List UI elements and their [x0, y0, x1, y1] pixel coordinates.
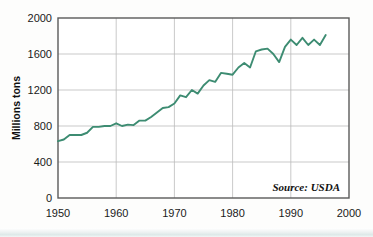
y-tick-1600: 1600 [28, 48, 52, 60]
y-tick-400: 400 [34, 156, 52, 168]
x-tick-2000: 2000 [337, 207, 361, 219]
scan-page-edge [0, 228, 373, 237]
x-axis-tick-labels: 1950 1960 1970 1980 1990 2000 [46, 207, 361, 219]
y-tick-2000: 2000 [28, 12, 52, 24]
y-tick-1200: 1200 [28, 84, 52, 96]
y-tick-800: 800 [34, 120, 52, 132]
chart-plot-area: 2000 1600 1200 800 400 0 1950 1960 1970 … [0, 0, 373, 237]
x-tick-1980: 1980 [220, 207, 244, 219]
plot-background [58, 18, 349, 198]
y-axis-tick-labels: 2000 1600 1200 800 400 0 [28, 12, 52, 204]
y-tick-0: 0 [46, 192, 52, 204]
y-axis-title: Millions tons [10, 76, 22, 140]
source-annotation: Source: USDA [272, 181, 340, 193]
x-tick-1950: 1950 [46, 207, 70, 219]
x-tick-1970: 1970 [162, 207, 186, 219]
chart-figure: 2000 1600 1200 800 400 0 1950 1960 1970 … [0, 0, 373, 237]
x-tick-1990: 1990 [279, 207, 303, 219]
x-tick-1960: 1960 [104, 207, 128, 219]
